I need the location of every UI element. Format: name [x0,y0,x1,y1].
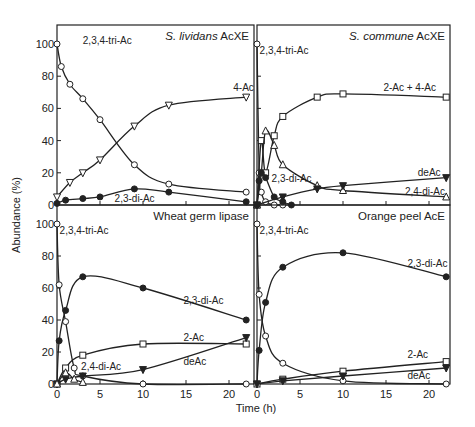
data-point-marker [443,274,449,280]
data-point-marker [243,199,249,205]
data-point-marker [256,291,262,297]
panel-0: 020406080100S. lividans AcXE2,3,4-tri-Ac… [36,25,254,211]
data-point-marker [340,91,346,97]
series-label: deAc [418,167,441,178]
series-label: 2-Ac [408,349,429,360]
chart-figure: 020406080100S. lividans AcXE2,3,4-tri-Ac… [0,0,475,427]
panel-title: Orange peel AcE [358,210,445,222]
y-tick-label: 40 [42,135,54,147]
data-point-marker [63,197,69,203]
data-point-marker [443,94,449,100]
data-point-marker [271,194,277,200]
panel-2: 02040608010005101520Wheat germ lipase2,3… [36,205,254,400]
series-label: 2,4-di-Ac [81,361,121,372]
data-point-marker [140,381,146,387]
y-tick-label: 100 [36,38,54,50]
data-point-marker [314,94,320,100]
series-label: 2,3,4-tri-Ac [83,35,132,46]
data-point-marker [56,338,62,344]
y-tick-label: 100 [36,218,54,230]
series-label: 2,3-di-Ac [115,193,155,204]
y-tick-label: 60 [42,282,54,294]
panel-3: 05101520Orange peel AcE2,3,4-tri-Ac2,3-d… [254,205,451,400]
y-tick-label: 80 [42,250,54,262]
series-label: deAc [183,356,206,367]
x-tick-label: 10 [337,388,349,400]
data-point-marker [280,113,286,119]
data-point-marker [243,317,249,323]
panel-title: Wheat germ lipase [153,210,249,222]
series-label: 2,3,4-tri-Ac [60,225,109,236]
data-point-marker [80,274,86,280]
y-tick-label: 0 [48,199,54,211]
y-tick-label: 20 [42,167,54,179]
series-label: 2,3,4-tri-Ac [260,225,309,236]
x-tick-label: 20 [223,388,235,400]
data-point-marker [131,186,137,192]
x-tick-label: 15 [380,388,392,400]
data-point-marker [256,347,262,353]
series-label: deAc [408,370,431,381]
series-label: 2,4-di-Ac [405,186,445,197]
series-label: 2-Ac + 4-Ac [383,82,436,93]
data-point-marker [243,189,249,195]
data-point-marker [263,299,269,305]
data-point-marker [256,178,262,184]
data-point-marker [263,175,269,181]
x-axis-label: Time (h) [236,402,277,414]
series-label: 2,3-di-Ac [272,173,312,184]
y-tick-label: 60 [42,102,54,114]
series-line [57,97,246,197]
series-label: 4-Ac [233,82,254,93]
y-tick-label: 40 [42,314,54,326]
data-point-marker [280,360,286,366]
data-point-marker [443,359,449,365]
data-point-marker [140,285,146,291]
data-point-marker [79,170,86,177]
series-label: 2,3,4-tri-Ac [260,45,309,56]
data-point-marker [443,381,449,387]
data-point-marker [54,41,60,47]
data-point-marker [280,199,286,205]
series-label: 2,3-di-Ac [408,258,448,269]
series-label: 2,3-di-Ac [183,295,223,306]
data-point-marker [63,307,69,313]
x-tick-label: 5 [97,388,103,400]
data-point-marker [97,194,103,200]
data-point-marker [263,333,269,339]
y-axis-label: Abundance (%) [10,177,22,253]
data-point-marker [166,181,172,187]
data-point-marker [58,64,64,70]
data-point-marker [71,365,77,371]
data-point-marker [131,162,137,168]
y-tick-label: 80 [42,70,54,82]
data-point-marker [56,282,62,288]
series-label: 2-Ac [183,332,204,343]
panel-title: S. lividans AcXE [165,30,249,42]
panel-title: S. commune AcXE [349,30,445,42]
x-tick-label: 10 [137,388,149,400]
data-point-marker [258,170,264,176]
data-point-marker [271,133,277,139]
x-tick-label: 5 [297,388,303,400]
data-point-marker [140,341,146,347]
data-point-marker [67,81,73,87]
data-point-marker [166,189,172,195]
data-point-marker [243,381,249,387]
data-point-marker [280,264,286,270]
x-tick-label: 15 [180,388,192,400]
panel-1: S. commune AcXE2,3,4-tri-Ac2-Ac + 4-Acde… [254,25,451,209]
data-point-marker [97,117,103,123]
x-tick-label: 0 [254,388,260,400]
x-tick-label: 20 [423,388,435,400]
data-point-marker [80,196,86,202]
x-tick-label: 0 [54,388,60,400]
y-tick-label: 20 [42,346,54,358]
data-point-marker [80,96,86,102]
data-point-marker [131,123,138,130]
data-point-marker [80,352,86,358]
data-point-marker [340,250,346,256]
plot-frame [57,25,254,205]
